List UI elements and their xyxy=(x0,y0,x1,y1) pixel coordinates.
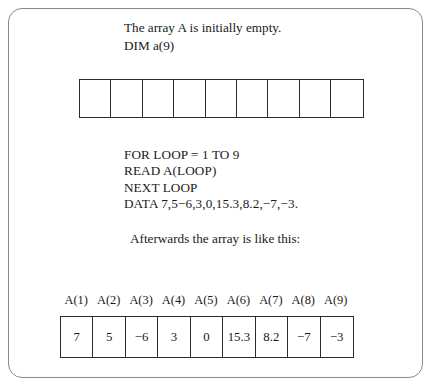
array-index-label: A(1) xyxy=(60,293,92,308)
filled-array-table: 7 5 −6 3 0 15.3 8.2 −7 −3 xyxy=(60,316,354,358)
empty-array-cell xyxy=(80,80,111,117)
empty-array-cell xyxy=(237,80,268,117)
array-index-label: A(3) xyxy=(125,293,157,308)
filled-array-cell: 15.3 xyxy=(223,317,255,357)
empty-array-cell xyxy=(206,80,237,117)
filled-array-cell: 8.2 xyxy=(256,317,288,357)
array-index-label: A(2) xyxy=(92,293,124,308)
array-index-label: A(4) xyxy=(157,293,189,308)
array-index-label: A(8) xyxy=(287,293,319,308)
array-index-label: A(5) xyxy=(190,293,222,308)
array-index-label: A(7) xyxy=(255,293,287,308)
empty-array-table xyxy=(79,79,364,118)
code-line-data: DATA 7,5−6,3,0,15.3,8.2,−7,−3. xyxy=(124,196,298,212)
intro-text-block: The array A is initially empty. DIM a(9) xyxy=(124,19,281,55)
figure-page: The array A is initially empty. DIM a(9)… xyxy=(0,0,435,388)
filled-array-cell: −7 xyxy=(288,317,320,357)
afterwards-caption: Afterwards the array is like this: xyxy=(130,231,300,247)
array-index-label-row: A(1) A(2) A(3) A(4) A(5) A(6) A(7) A(8) … xyxy=(60,293,352,308)
empty-array-cell xyxy=(111,80,142,117)
filled-array-cell: 5 xyxy=(93,317,125,357)
filled-array-cell: 7 xyxy=(61,317,93,357)
array-index-label: A(6) xyxy=(222,293,254,308)
basic-code-listing: FOR LOOP = 1 TO 9 READ A(LOOP) NEXT LOOP… xyxy=(124,147,298,213)
array-index-label: A(9) xyxy=(320,293,352,308)
code-line-read: READ A(LOOP) xyxy=(124,163,298,179)
empty-array-cell xyxy=(331,80,362,117)
filled-array-cell: −3 xyxy=(321,317,353,357)
code-line-next-loop: NEXT LOOP xyxy=(124,180,298,196)
filled-array-cell: −6 xyxy=(126,317,158,357)
empty-array-cell xyxy=(300,80,331,117)
empty-array-cell xyxy=(268,80,299,117)
intro-line-dim-statement: DIM a(9) xyxy=(124,37,281,55)
empty-array-cell xyxy=(143,80,174,117)
filled-array-cell: 3 xyxy=(158,317,190,357)
empty-array-cell xyxy=(174,80,205,117)
intro-line-array-empty: The array A is initially empty. xyxy=(124,19,281,37)
filled-array-cell: 0 xyxy=(191,317,223,357)
code-line-for-loop: FOR LOOP = 1 TO 9 xyxy=(124,147,298,163)
